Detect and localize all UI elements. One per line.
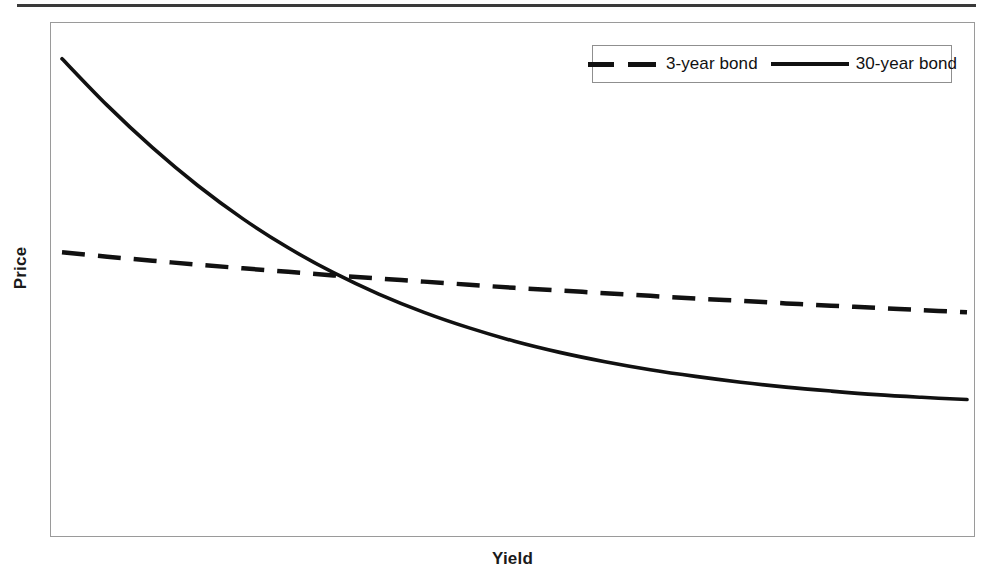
chart-legend: 3-year bond 30-year bond [592,45,952,83]
legend-label-3-year-bond: 3-year bond [666,54,758,74]
legend-entry-30-year-bond: 30-year bond [771,54,957,74]
series-line-30-year-bond [62,59,967,400]
header-rule [17,4,976,7]
legend-swatch-solid-icon [771,57,849,71]
legend-entry-3-year-bond: 3-year bond [587,54,758,74]
bond-convexity-figure: Price Yield 3-year bond 30-year bond [0,0,993,584]
y-axis-label: Price [11,228,31,308]
series-line-3-year-bond [62,252,967,312]
legend-label-30-year-bond: 30-year bond [856,54,957,74]
plot-canvas [50,22,975,537]
legend-swatch-dashed-icon [587,57,659,71]
x-axis-label: Yield [50,549,975,569]
